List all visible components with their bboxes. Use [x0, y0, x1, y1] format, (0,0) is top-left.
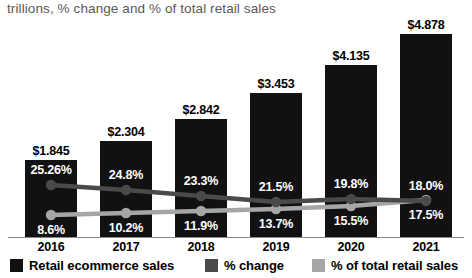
x-tick-2020: 2020: [315, 240, 387, 254]
pct-change-marker-2017: [121, 185, 131, 195]
pct-change-marker-2020: [346, 194, 356, 204]
pct-change-label-2016: 25.26%: [13, 163, 89, 177]
legend-label-1: % change: [224, 258, 284, 273]
legend-label-2: % of total retail sales: [331, 258, 458, 273]
pct-of-total-retail-sales-label-2021: 17.5%: [388, 208, 464, 222]
pct-of-total-retail-sales-label-2017: 10.2%: [88, 221, 164, 235]
pct-change-label-2020: 19.8%: [313, 177, 389, 191]
pct-change-label-2019: 21.5%: [238, 180, 314, 194]
pct-change-label-2017: 24.8%: [88, 168, 164, 182]
x-tick-2018: 2018: [165, 240, 237, 254]
pct-change-marker-2016: [46, 180, 56, 190]
legend-swatch-icon-1: [205, 259, 218, 272]
pct-change-label-2018: 23.3%: [163, 174, 239, 188]
pct-change-marker-2018: [196, 191, 206, 201]
pct-of-total-retail-sales-marker-2018: [196, 206, 206, 216]
legend-label-0: Retail ecommerce sales: [29, 258, 174, 273]
legend-item-2[interactable]: % of total retail sales: [312, 258, 458, 273]
x-tick-2016: 2016: [15, 240, 87, 254]
legend-item-0[interactable]: Retail ecommerce sales: [10, 258, 174, 273]
pct-of-total-retail-sales-marker-2016: [46, 210, 56, 220]
legend-swatch-icon-0: [10, 259, 23, 272]
pct-of-total-retail-sales-marker-2017: [121, 208, 131, 218]
pct-of-total-retail-sales-label-2016: 8.6%: [13, 223, 89, 237]
pct-of-total-retail-sales-line: [51, 200, 426, 215]
legend-swatch-icon-2: [312, 259, 325, 272]
x-tick-2021: 2021: [390, 240, 462, 254]
pct-of-total-retail-sales-label-2019: 13.7%: [238, 217, 314, 231]
pct-change-marker-2019: [271, 197, 281, 207]
pct-of-total-retail-sales-label-2020: 15.5%: [313, 214, 389, 228]
plot-area: $1.845$2.304$2.842$3.453$4.135$4.87825.2…: [0, 0, 472, 238]
chart-legend: Retail ecommerce sales% change% of total…: [0, 256, 472, 276]
pct-change-label-2021: 18.0%: [388, 179, 464, 193]
x-tick-2019: 2019: [240, 240, 312, 254]
pct-of-total-retail-sales-label-2018: 11.9%: [163, 219, 239, 233]
line-series-layer: [0, 0, 472, 238]
chart-container: trillions, % change and % of total retai…: [0, 0, 472, 278]
legend-item-1[interactable]: % change: [205, 258, 284, 273]
pct-change-marker-2021: [421, 196, 431, 206]
x-tick-2017: 2017: [90, 240, 162, 254]
